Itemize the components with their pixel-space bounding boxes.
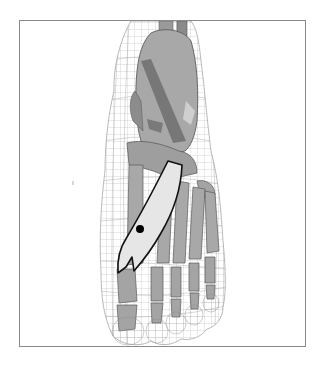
- location-marker: [136, 225, 144, 233]
- foot-illustration: [19, 20, 306, 347]
- figure-frame: [19, 20, 306, 347]
